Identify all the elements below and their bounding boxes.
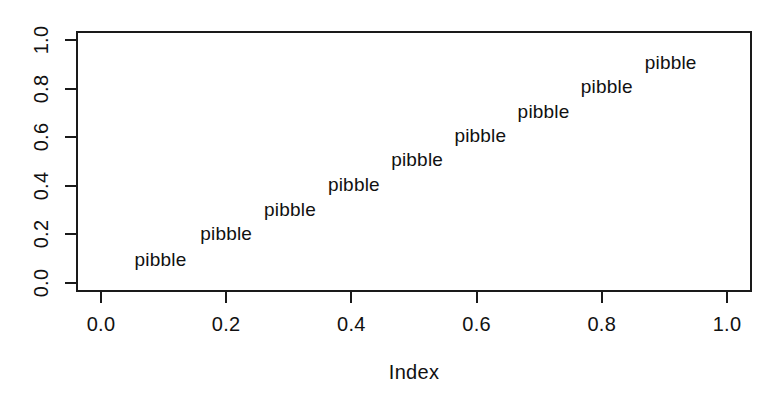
x-axis-tick-label: 1.0 bbox=[713, 313, 742, 336]
data-point-label: pibble bbox=[264, 199, 316, 221]
y-axis-tick bbox=[65, 136, 76, 138]
x-axis-tick-label: 0.4 bbox=[337, 313, 366, 336]
y-axis-tick bbox=[65, 88, 76, 90]
data-point-label: pibble bbox=[645, 52, 697, 74]
x-axis-tick-label: 0.6 bbox=[462, 313, 491, 336]
x-axis-title: Index bbox=[389, 361, 439, 384]
y-axis-tick-label: 0.4 bbox=[30, 171, 53, 200]
y-axis-tick bbox=[65, 233, 76, 235]
x-axis-tick bbox=[225, 292, 227, 303]
data-point-label: pibble bbox=[135, 249, 187, 271]
data-point-label: pibble bbox=[581, 76, 633, 98]
data-point-label: pibble bbox=[518, 101, 570, 123]
x-axis-tick bbox=[350, 292, 352, 303]
y-axis-tick-label: 0.0 bbox=[30, 269, 53, 298]
x-axis-tick-label: 0.0 bbox=[87, 313, 116, 336]
data-point-label: pibble bbox=[454, 125, 506, 147]
data-point-label: pibble bbox=[328, 174, 380, 196]
y-axis-tick-label: 1.0 bbox=[30, 26, 53, 55]
x-axis-tick bbox=[601, 292, 603, 303]
plot-figure: 0.00.20.40.60.81.0 0.00.20.40.60.81.0 pi… bbox=[0, 0, 784, 394]
x-axis-tick-label: 0.8 bbox=[587, 313, 616, 336]
y-axis-tick-label: 0.2 bbox=[30, 220, 53, 249]
plot-data-area: pibblepibblepibblepibblepibblepibblepibb… bbox=[76, 31, 752, 292]
y-axis-tick bbox=[65, 185, 76, 187]
data-point-label: pibble bbox=[391, 149, 443, 171]
y-axis-tick-label: 0.8 bbox=[30, 74, 53, 103]
x-axis-tick bbox=[726, 292, 728, 303]
y-axis-tick bbox=[65, 39, 76, 41]
x-axis-tick-label: 0.2 bbox=[212, 313, 241, 336]
y-axis-tick bbox=[65, 282, 76, 284]
y-axis-tick-label: 0.6 bbox=[30, 123, 53, 152]
data-point-label: pibble bbox=[200, 223, 252, 245]
x-axis-tick bbox=[476, 292, 478, 303]
x-axis-tick bbox=[100, 292, 102, 303]
